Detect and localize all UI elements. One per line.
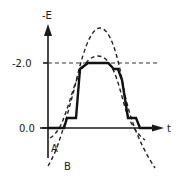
tick-label-high: -2.0 (12, 58, 32, 69)
y-axis-arrow-icon (44, 24, 52, 36)
curve-b-label: B (64, 161, 71, 172)
tick-label-zero: 0.0 (19, 123, 35, 134)
x-axis-arrow-icon (152, 125, 164, 132)
y-axis-label: -E (42, 10, 52, 21)
curve-b (48, 28, 155, 168)
energy-pulse-diagram: -E t -2.0 0.0 A B (0, 0, 176, 192)
curve-a-label: A (51, 143, 58, 154)
x-axis-label: t (167, 123, 171, 134)
